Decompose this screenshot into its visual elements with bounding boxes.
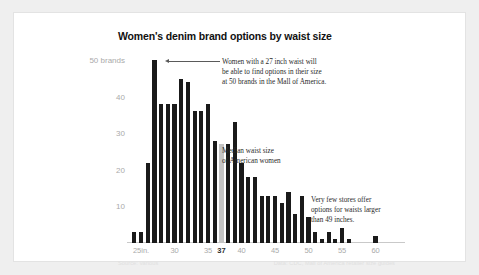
bar <box>186 82 190 243</box>
bar <box>300 196 304 244</box>
bar <box>193 111 197 243</box>
y-axis-tick-label: 10 <box>116 202 125 211</box>
bar <box>179 79 183 243</box>
bar <box>159 104 163 243</box>
x-axis-tick-label: 50 <box>304 246 312 255</box>
annotation-line: Women with a 27 inch waist will <box>222 57 326 67</box>
bar <box>199 111 203 243</box>
bar <box>172 104 176 243</box>
bar <box>280 203 284 243</box>
bar <box>239 163 243 243</box>
bar <box>152 60 156 243</box>
bar <box>327 232 331 243</box>
bar <box>246 177 250 243</box>
bar <box>213 141 217 243</box>
annotation-peak: Women with a 27 inch waist willbe able t… <box>222 57 326 88</box>
x-axis-tick-label: 30 <box>170 246 178 255</box>
bar <box>293 214 297 243</box>
footer-source-left: Source: various <box>118 260 158 266</box>
peak-annotation-leader-line <box>167 61 220 62</box>
bar <box>273 196 277 244</box>
bar <box>166 104 170 243</box>
bar <box>313 232 317 243</box>
x-axis-tick-label: 25in. <box>133 246 149 255</box>
x-axis-tick-label: 45 <box>271 246 279 255</box>
footer-source-right: Data: CDC, Mall of America retailer size… <box>274 260 395 266</box>
annotation-line: Median waist size <box>222 146 281 156</box>
bar <box>253 177 257 243</box>
annotation-line: be able to find options in their size <box>222 67 326 77</box>
chart-card: Women's denim brand options by waist siz… <box>14 13 465 261</box>
screenshot-root: Women's denim brand options by waist siz… <box>0 0 479 275</box>
bar <box>266 196 270 244</box>
annotation-median: Median waist sizeof American women <box>222 146 281 166</box>
bar <box>373 236 377 243</box>
bar <box>286 192 290 243</box>
x-axis-tick-label: 37 <box>217 246 225 255</box>
annotation-line: of American women <box>222 156 281 166</box>
bar <box>132 232 136 243</box>
x-axis-tick-label: 55 <box>338 246 346 255</box>
y-axis-tick-label: 50 brands <box>89 56 125 65</box>
x-axis-tick-label: 35 <box>204 246 212 255</box>
annotation-line: than 49 inches. <box>311 215 381 225</box>
bar <box>306 217 310 243</box>
bar <box>260 196 264 244</box>
y-axis-tick-label: 20 <box>116 165 125 174</box>
annotation-line: at 50 brands in the Mall of America. <box>222 77 326 87</box>
annotation-line: Very few stores offer <box>311 195 381 205</box>
x-axis-tick-label: 40 <box>237 246 245 255</box>
y-axis-tick-label: 30 <box>116 129 125 138</box>
bar <box>347 239 351 243</box>
annotation-line: options for waists larger <box>311 205 381 215</box>
x-axis-tick-label: 60 <box>371 246 379 255</box>
bar <box>333 239 337 243</box>
annotation-tail: Very few stores offeroptions for waists … <box>311 195 381 226</box>
bar <box>340 228 344 243</box>
bar <box>146 163 150 243</box>
bar <box>233 122 237 243</box>
bar <box>206 104 210 243</box>
page-title: Women's denim brand options by waist siz… <box>118 30 332 42</box>
bar <box>320 239 324 243</box>
bar <box>139 232 143 243</box>
y-axis-tick-label: 40 <box>116 92 125 101</box>
